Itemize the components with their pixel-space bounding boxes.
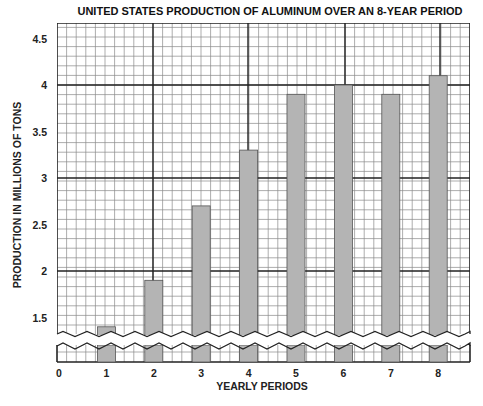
bar-stub-2	[145, 345, 163, 362]
y-tick-label: 3.5	[32, 126, 47, 138]
y-tick-label: 1.5	[32, 312, 47, 324]
x-tick-label: 2	[151, 367, 157, 379]
plot-frame	[57, 23, 470, 342]
y-tick-label: 4.5	[32, 33, 47, 45]
axis-break	[55, 332, 472, 350]
y-tick-labels: 1.522.533.544.5	[32, 33, 47, 324]
grid-upper	[57, 23, 470, 342]
y-axis-label: PRODUCTION IN MILLIONS OF TONS	[11, 102, 23, 288]
bar-stub-3	[192, 345, 210, 362]
x-tick-label: 5	[293, 367, 299, 379]
bar-4	[240, 150, 258, 338]
bars	[97, 76, 447, 362]
x-tick-label: 1	[103, 367, 109, 379]
x-tick-labels: 012345678	[56, 367, 441, 379]
y-tick-label: 2.5	[32, 219, 47, 231]
bar-3	[192, 206, 210, 338]
bar-stub-4	[240, 345, 258, 362]
bar-5	[287, 94, 305, 338]
grid-lower	[57, 343, 470, 362]
y-tick-label: 3	[41, 172, 47, 184]
x-tick-label: 3	[198, 367, 204, 379]
x-tick-label: 7	[388, 367, 394, 379]
bar-8	[429, 76, 447, 338]
y-tick-label: 4	[41, 79, 47, 91]
chart: UNITED STATES PRODUCTION OF ALUMINUM OVE…	[0, 0, 483, 406]
x-tick-label: 8	[435, 367, 441, 379]
bar-2	[145, 280, 163, 338]
chart-title: UNITED STATES PRODUCTION OF ALUMINUM OVE…	[77, 5, 462, 17]
bar-6	[334, 85, 352, 338]
y-tick-label: 2	[41, 265, 47, 277]
x-axis-label: YEARLY PERIODS	[216, 380, 308, 392]
bar-stub-1	[97, 345, 115, 362]
bar-stub-5	[287, 345, 305, 362]
bar-7	[382, 94, 400, 338]
x-tick-label: 4	[246, 367, 252, 379]
x-tick-label: 0	[56, 367, 62, 379]
x-tick-label: 6	[340, 367, 346, 379]
